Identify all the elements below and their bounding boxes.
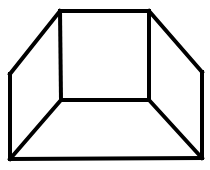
edge-outer_bottom_left-to-outer_bottom_right [10, 158, 202, 159]
edge-inner_bottom_left-to-inner_top_left [60, 11, 61, 100]
edge-inner_bottom_right-to-outer_bottom_right [149, 100, 202, 158]
edge-inner_top_left-to-outer_left_top [10, 11, 60, 74]
edge-outer_right_top-to-inner_top_right [149, 11, 202, 72]
edge-inner_bottom_left-to-outer_bottom_left [10, 100, 61, 159]
figure-edges [10, 11, 202, 159]
box-line-drawing [0, 0, 210, 170]
